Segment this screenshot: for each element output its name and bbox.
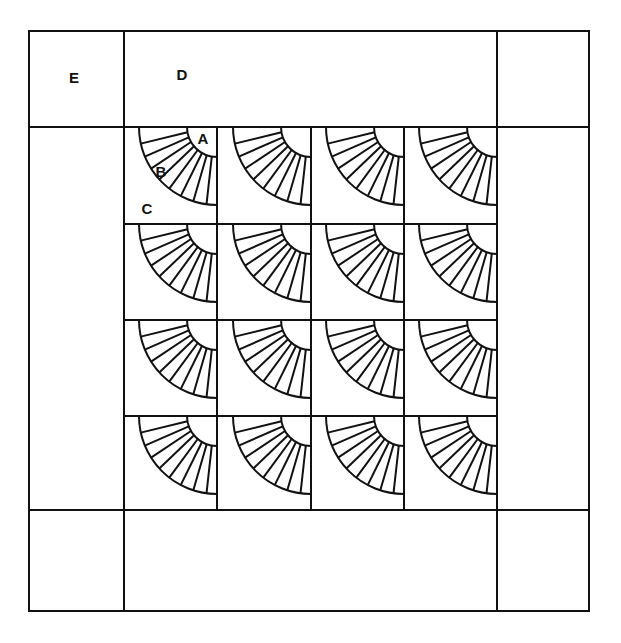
fan-blade-divider [394, 157, 399, 205]
fan-block [139, 224, 217, 302]
fan-blade-divider [394, 446, 399, 494]
quilt-diagram: A B C D E [0, 0, 621, 643]
fan-block [139, 320, 217, 398]
fan-center-arc [187, 416, 217, 446]
fan-blade-divider [487, 350, 492, 398]
fan-blade-divider [473, 252, 486, 298]
piece-labels: A B C D E [69, 66, 209, 217]
fan-outer-arc [326, 416, 404, 494]
fan-blade-divider [394, 254, 399, 302]
fan-center-arc [374, 127, 404, 157]
fan-block [419, 416, 497, 494]
fan-block [139, 416, 217, 494]
fan-outer-arc [326, 320, 404, 398]
fan-block [419, 224, 497, 302]
fan-blade-divider [207, 446, 212, 494]
fan-center-arc [467, 127, 497, 157]
fan-center-arc [281, 320, 311, 350]
fan-blade-divider [487, 157, 492, 205]
fan-blade-divider [287, 444, 300, 490]
fan-outer-arc [326, 127, 404, 205]
fan-block [233, 416, 311, 494]
fan-blocks [139, 127, 497, 494]
fan-blade-divider [207, 350, 212, 398]
fan-blade-divider [301, 157, 306, 205]
fan-blade-divider [394, 350, 399, 398]
fan-outer-arc [233, 416, 311, 494]
fan-center-arc [187, 224, 217, 254]
fan-outer-arc [233, 320, 311, 398]
fan-center-arc [374, 416, 404, 446]
fan-center-arc [467, 320, 497, 350]
fan-center-arc [467, 416, 497, 446]
fan-blade-divider [193, 155, 206, 201]
fan-blade-divider [473, 348, 486, 394]
fan-blade-divider [207, 254, 212, 302]
fan-block [233, 127, 311, 205]
fan-center-arc [281, 224, 311, 254]
fan-outer-arc [139, 320, 217, 398]
fan-blade-divider [301, 254, 306, 302]
label-c: C [142, 200, 153, 217]
fan-blade-divider [487, 254, 492, 302]
fan-outer-arc [139, 416, 217, 494]
fan-blade-divider [287, 348, 300, 394]
fan-center-arc [374, 320, 404, 350]
fan-blade-divider [193, 348, 206, 394]
fan-blade-divider [380, 155, 393, 201]
label-e: E [69, 69, 79, 86]
fan-blade-divider [380, 348, 393, 394]
fan-outer-arc [419, 416, 497, 494]
fan-outer-arc [419, 127, 497, 205]
fan-outer-arc [139, 224, 217, 302]
fan-block [419, 320, 497, 398]
fan-blade-divider [380, 252, 393, 298]
fan-blade-divider [287, 252, 300, 298]
fan-block [419, 127, 497, 205]
fan-outer-arc [419, 320, 497, 398]
fan-blade-divider [380, 444, 393, 490]
fan-block [326, 416, 404, 494]
fan-blade-divider [193, 252, 206, 298]
fan-blade-divider [301, 446, 306, 494]
label-a: A [198, 130, 209, 147]
fan-block [326, 127, 404, 205]
quilt-frame [29, 31, 589, 611]
fan-outer-arc [419, 224, 497, 302]
label-b: B [156, 163, 167, 180]
fan-block [233, 224, 311, 302]
fan-outer-arc [233, 127, 311, 205]
fan-block [326, 320, 404, 398]
fan-center-arc [467, 224, 497, 254]
fan-blade-divider [473, 444, 486, 490]
fan-outer-arc [233, 224, 311, 302]
fan-block [233, 320, 311, 398]
fan-center-arc [281, 416, 311, 446]
fan-outer-arc [326, 224, 404, 302]
fan-center-arc [374, 224, 404, 254]
fan-block [326, 224, 404, 302]
fan-blade-divider [301, 350, 306, 398]
fan-blade-divider [287, 155, 300, 201]
label-d: D [177, 66, 188, 83]
fan-blade-divider [207, 157, 212, 205]
fan-blade-divider [473, 155, 486, 201]
fan-center-arc [187, 320, 217, 350]
fan-blade-divider [487, 446, 492, 494]
fan-center-arc [281, 127, 311, 157]
fan-blade-divider [193, 444, 206, 490]
